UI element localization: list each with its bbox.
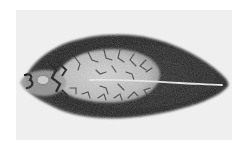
grain-overlay (24, 35, 228, 118)
fluke-specimen-image (0, 0, 240, 148)
